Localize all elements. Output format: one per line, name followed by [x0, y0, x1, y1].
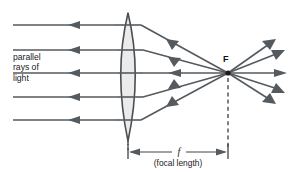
parallel-rays-label-line3: light: [13, 73, 29, 83]
focal-point-label: F: [223, 54, 229, 64]
refracted-ray-4-arrowhead: [168, 79, 181, 89]
diagram-canvas: parallel rays of light F f (focal length…: [0, 0, 289, 172]
diverging-ray-3-arrowhead: [274, 69, 287, 77]
dimension-arrow-left: [129, 149, 140, 156]
incoming-ray-3-arrowhead: [68, 69, 80, 77]
parallel-rays-label-line1: parallel: [13, 52, 41, 62]
refracted-ray-4: [143, 73, 228, 97]
refracted-ray-2: [143, 50, 228, 73]
refracted-ray-3-arrowhead: [168, 69, 181, 77]
dimension-arrow-right: [216, 149, 227, 156]
converging-refracted-rays: [141, 25, 228, 120]
diverging-rays-after-focus: [228, 39, 287, 104]
focal-point-dot: [225, 70, 230, 75]
diverging-ray-4: [228, 73, 281, 90]
incoming-ray-2-arrowhead: [68, 46, 80, 54]
focal-length-caption-label: (focal length): [154, 158, 203, 168]
refracted-ray-5-arrowhead: [166, 96, 179, 107]
focal-length-symbol-label: f: [178, 146, 182, 157]
diverging-ray-5-arrowhead: [262, 93, 276, 104]
converging-lens-shape: [121, 13, 136, 141]
incoming-ray-4-arrowhead: [68, 93, 80, 101]
incoming-ray-5-arrowhead: [68, 116, 80, 124]
refracted-ray-2-arrowhead: [168, 57, 181, 67]
parallel-rays-label-line2: rays of: [13, 62, 39, 72]
refracted-ray-1: [141, 25, 228, 73]
lens-diagram-figure: parallel rays of light F f (focal length…: [0, 0, 289, 172]
refracted-ray-5: [141, 73, 228, 120]
diverging-ray-5: [228, 73, 272, 101]
incoming-ray-1-arrowhead: [68, 21, 80, 29]
